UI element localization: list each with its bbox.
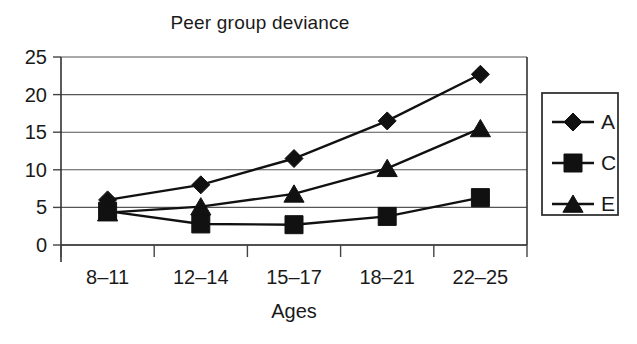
data-point-marker-C: [378, 207, 396, 225]
x-axis-tick-labels: 8–1112–1415–1718–2122–25: [86, 266, 508, 288]
x-tick-label: 15–17: [266, 266, 322, 288]
x-tick-label: 12–14: [173, 266, 229, 288]
data-point-marker-C: [285, 216, 303, 234]
line-chart-plot: 0510152025 8–1112–1415–1718–2122–25 Ages…: [0, 0, 637, 344]
data-point-marker-C: [471, 189, 489, 207]
x-axis-title: Ages: [271, 300, 317, 322]
legend-marker-diamond-icon: [564, 113, 582, 131]
data-point-marker-E: [377, 159, 397, 176]
y-tick-label: 0: [36, 234, 47, 256]
chart-legend: ACE: [542, 93, 618, 215]
x-tick-label: 8–11: [86, 266, 129, 288]
data-point-marker-C: [192, 215, 210, 233]
x-tick-label: 18–21: [359, 266, 415, 288]
legend-label-A: A: [601, 110, 615, 133]
legend-label-E: E: [601, 192, 615, 215]
legend-entries: ACE: [552, 110, 616, 215]
y-tick-marks: [53, 57, 61, 245]
x-tick-marks: [61, 245, 527, 257]
data-point-marker-A: [285, 150, 303, 168]
y-tick-label: 5: [36, 196, 47, 218]
series-line-A: [108, 74, 481, 200]
x-tick-label: 22–25: [453, 266, 509, 288]
data-point-marker-E: [470, 119, 490, 136]
y-tick-label: 10: [25, 159, 47, 181]
y-tick-label: 20: [25, 84, 47, 106]
legend-label-C: C: [601, 151, 616, 174]
y-axis-tick-labels: 0510152025: [25, 46, 47, 256]
legend-marker-square-icon: [564, 154, 582, 172]
data-point-marker-E: [284, 185, 304, 202]
y-tick-label: 25: [25, 46, 47, 68]
data-point-marker-A: [471, 65, 489, 83]
data-point-marker-A: [192, 176, 210, 194]
data-series-group: [98, 65, 491, 233]
data-point-marker-A: [378, 112, 396, 130]
chart-figure: Peer group deviance 0510152025 8–1112–14…: [0, 0, 637, 344]
y-tick-label: 15: [25, 121, 47, 143]
